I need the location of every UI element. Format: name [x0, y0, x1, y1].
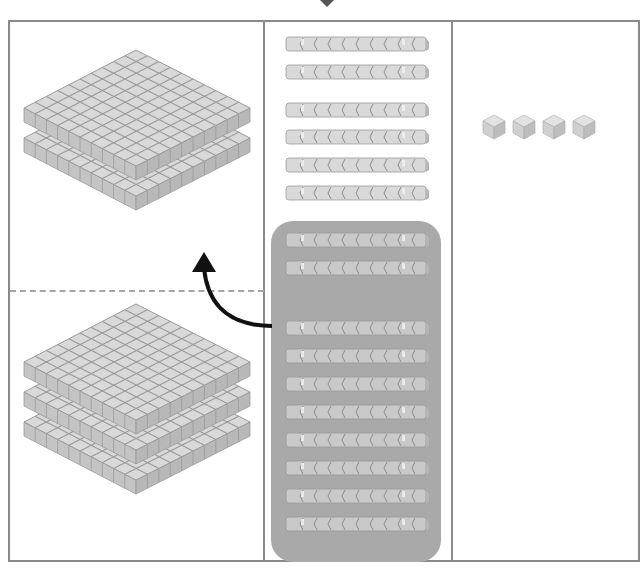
tens-rod-grouped: [284, 258, 430, 276]
top-marker: [320, 0, 334, 7]
tens-rod: [284, 183, 430, 201]
ones-units: [482, 114, 596, 140]
regroup-arrow-icon: [180, 240, 290, 340]
tens-rod-grouped: [284, 374, 430, 392]
unit-cube: [542, 114, 566, 140]
tens-rod-grouped: [284, 318, 430, 336]
tens-rod-grouped: [284, 486, 430, 504]
hundreds-count: hundreds: [0, 0, 1, 1]
tens-rod-grouped: [284, 346, 430, 364]
tens-rod: [284, 155, 430, 173]
hundreds-flats-top-stack: [22, 48, 254, 217]
tens-rod: [284, 127, 430, 145]
unit-cube: [482, 114, 506, 140]
tens-rod-grouped: [284, 230, 430, 248]
column-divider-tens-ones: [451, 20, 453, 562]
tens-rod: [284, 62, 430, 80]
unit-cube: [512, 114, 536, 140]
tens-rod-grouped: [284, 514, 430, 532]
tens-rod: [284, 100, 430, 118]
tens-rod-grouped: [284, 402, 430, 420]
tens-rod-grouped: [284, 430, 430, 448]
tens-rod-grouped: [284, 458, 430, 476]
tens-rod: [284, 34, 430, 52]
unit-cube: [572, 114, 596, 140]
